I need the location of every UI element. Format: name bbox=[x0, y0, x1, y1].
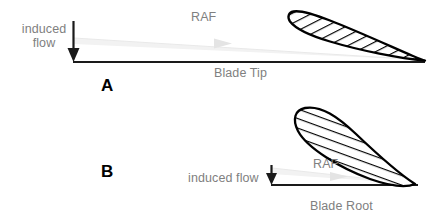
panel-letter-a: A bbox=[101, 77, 113, 94]
diagram-canvas: induced flow RAF Blade Tip A B induced f… bbox=[0, 0, 438, 224]
blade-root-label: Blade Root bbox=[310, 199, 373, 213]
induced-flow-label-a-line2: flow bbox=[16, 36, 72, 50]
induced-flow-label-a-line1: induced bbox=[22, 22, 67, 36]
blade-tip-label: Blade Tip bbox=[214, 66, 267, 80]
induced-flow-label-a: induced flow bbox=[16, 22, 72, 50]
raf-arrow-b bbox=[330, 172, 348, 181]
induced-flow-label-b: induced flow bbox=[188, 171, 259, 185]
raf-label-b: RAF bbox=[313, 157, 338, 171]
panel-letter-b: B bbox=[101, 163, 113, 180]
raf-label-a: RAF bbox=[191, 10, 216, 24]
